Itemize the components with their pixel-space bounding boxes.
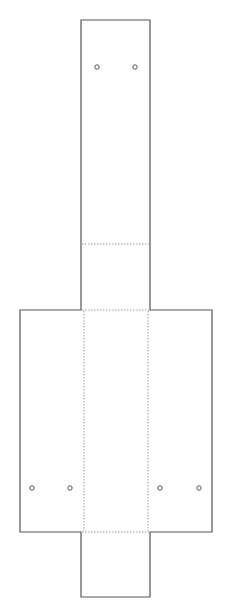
hole-top-right-icon — [133, 65, 137, 69]
background — [0, 0, 234, 606]
dieline-diagram — [0, 0, 234, 606]
hole-right-flap-inner-icon — [158, 486, 162, 490]
hole-right-flap-outer-icon — [197, 486, 201, 490]
hole-left-flap-outer-icon — [30, 486, 34, 490]
hole-left-flap-inner-icon — [68, 486, 72, 490]
hole-top-left-icon — [95, 65, 99, 69]
